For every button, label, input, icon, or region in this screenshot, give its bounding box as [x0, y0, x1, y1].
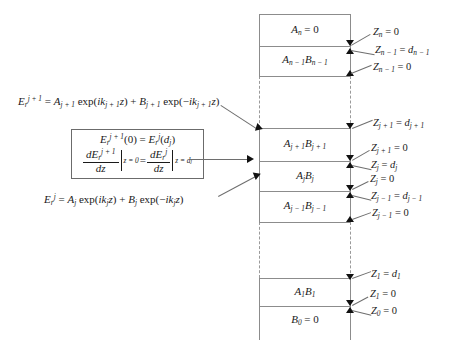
- layer-caption-j: AjBj: [259, 170, 351, 183]
- label-z-n-1-zero: Zn − 1 = 0: [373, 61, 411, 74]
- eval-bar-right: [172, 150, 173, 171]
- leader-z-n-1-zero: [351, 65, 372, 74]
- equation-bottom-field: Erj = Aj exp(ikjz) + Bj exp(−ikjz): [44, 193, 183, 207]
- left-dashed-gap-upper: [259, 76, 260, 128]
- interface-top-of-j-plus-1: [259, 128, 351, 129]
- interface-top-of-1: [259, 278, 351, 279]
- label-z-j-plus-1-d: Zj + 1 = dj + 1: [373, 117, 424, 130]
- eval-at-zero: z = 0: [124, 157, 139, 165]
- interface-j-to-j-minus-1: [259, 191, 351, 192]
- equals-sign: =: [140, 155, 146, 167]
- leader-z-j-plus-1-zero: [352, 150, 370, 161]
- layer-caption-j-plus-1: Aj + 1Bj + 1: [259, 138, 351, 151]
- boundary-condition-box: Erj + 1(0) = Erj(dj) dErj + 1 dz z = 0 =…: [71, 129, 204, 179]
- interface-n-to-n-1: [259, 46, 351, 47]
- layer-caption-n: An = 0: [259, 24, 351, 37]
- layered-stack-figure: An = 0 An − 1Bn − 1 Aj + 1Bj + 1 AjBj Aj…: [0, 0, 454, 346]
- leader-top-equation: [220, 105, 257, 130]
- label-z-j-minus-1-d: Zj − 1 = dj − 1: [371, 190, 422, 203]
- layer-caption-n-1: An − 1Bn − 1: [259, 54, 351, 67]
- right-dashed-gap-lower: [350, 222, 351, 278]
- left-dashed-gap-lower: [259, 222, 260, 278]
- right-dashed-gap-upper: [350, 76, 351, 128]
- leader-z-j-minus-1-zero: [352, 212, 371, 220]
- leader-z-n-1-d: [351, 50, 375, 55]
- leader-z-j-minus-1-d: [352, 195, 372, 201]
- eval-bar-left: [121, 150, 122, 171]
- label-z-j-plus-1-zero: Zj + 1 = 0: [371, 142, 408, 155]
- label-z-n: Zn = 0: [373, 26, 399, 39]
- layer-caption-0: B0 = 0: [259, 314, 351, 327]
- boundary-condition-line-1: Erj + 1(0) = Erj(dj): [79, 133, 196, 147]
- arrow-boundary-box: [247, 155, 254, 163]
- layer-caption-1: A1B1: [259, 286, 351, 299]
- leader-z-1-d: [352, 271, 371, 279]
- label-z-1-d: Z1 = d1: [371, 268, 401, 281]
- layer-caption-j-minus-1: Aj − 1Bj − 1: [259, 200, 351, 213]
- label-z-j-d: Zj = dj: [371, 159, 397, 172]
- derivative-right: dErj dz: [147, 148, 170, 174]
- label-z-j-minus-1-zero: Zj − 1 = 0: [372, 207, 409, 220]
- interface-1-to-0: [259, 306, 351, 307]
- interface-bottom-of-j-minus-1: [259, 222, 351, 223]
- interface-j-plus-1-to-j: [259, 161, 351, 162]
- label-z-j-zero: Zj = 0: [370, 173, 394, 186]
- label-z-n-1-d: Zn − 1 = dn − 1: [375, 44, 429, 57]
- label-z-0-zero: Z0 = 0: [371, 305, 397, 318]
- equation-top-field: Erj + 1 = Aj + 1 exp(ikj + 1z) + Bj + 1 …: [18, 95, 219, 109]
- leader-z-1-zero: [352, 297, 368, 306]
- interface-top-of-n: [259, 14, 351, 15]
- leader-z-j-zero: [352, 181, 369, 190]
- arrow-top-equation: [255, 123, 264, 133]
- label-z-1-zero: Z1 = 0: [370, 288, 396, 301]
- leader-boundary-box: [190, 159, 248, 160]
- leader-bottom-equation: [218, 175, 257, 197]
- leader-z-j-d: [352, 165, 372, 170]
- leader-z-0-zero: [352, 310, 372, 316]
- boundary-condition-line-2: dErj + 1 dz z = 0 = dErj dz z = dj: [79, 148, 196, 174]
- derivative-left: dErj + 1 dz: [83, 148, 119, 174]
- leader-z-j-plus-1-d: [352, 120, 373, 129]
- interface-bottom-of-n-1: [259, 76, 351, 77]
